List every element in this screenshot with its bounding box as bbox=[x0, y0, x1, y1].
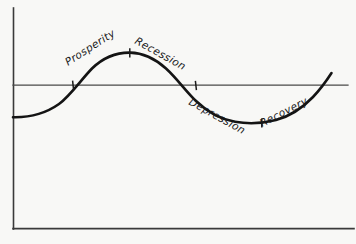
tick-prosperity-crossing bbox=[73, 81, 74, 91]
label-prosperity: Prosperity bbox=[63, 26, 118, 67]
label-recovery: Recovery bbox=[257, 94, 309, 129]
cycle-diagram-canvas: Prosperity Recession Depression Recovery bbox=[0, 0, 356, 244]
label-depression: Depression bbox=[187, 95, 248, 136]
tick-recession-crossing bbox=[195, 81, 196, 90]
business-cycle-figure: Prosperity Recession Depression Recovery bbox=[0, 0, 356, 244]
